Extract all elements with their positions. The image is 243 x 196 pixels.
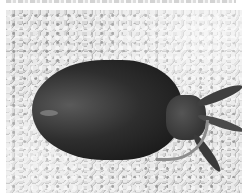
caption-line [6, 0, 236, 3]
cuttlefish-photo [6, 10, 242, 193]
cropped-caption-text [0, 0, 243, 8]
mantle-highlight [40, 110, 58, 116]
